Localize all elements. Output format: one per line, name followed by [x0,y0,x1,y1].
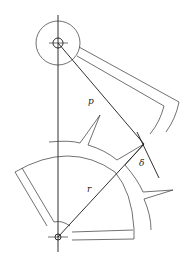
label-p: p [88,96,94,106]
cam-sector [15,156,134,240]
cam-diagram: p r δ [0,0,189,259]
tangent-line [137,132,159,178]
line-r [58,144,144,237]
label-delta: δ [139,158,144,168]
line-p [58,43,144,144]
follower-arm [77,47,179,134]
label-r: r [87,184,92,194]
cam-outer-profile [49,115,173,230]
diagram-canvas: p r δ [0,0,189,259]
